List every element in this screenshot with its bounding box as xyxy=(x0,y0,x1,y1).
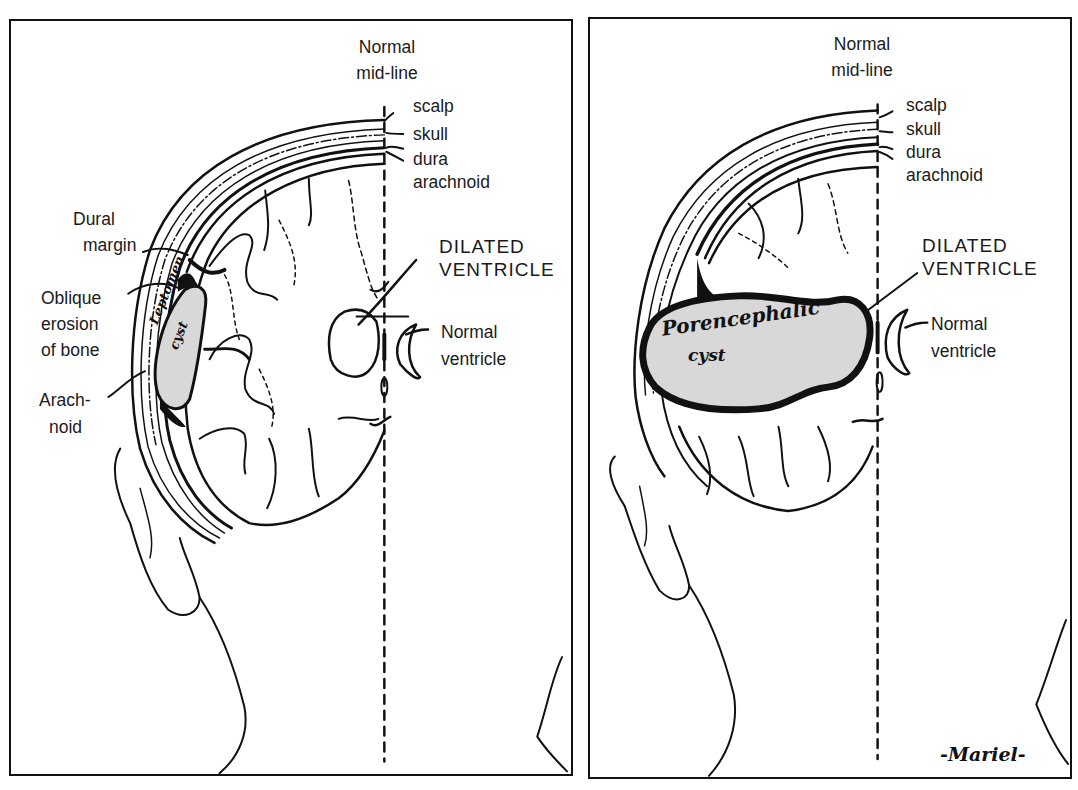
leptomeningeal-cyst-panel: Leptomen. cyst Normal mid-line scalp sku… xyxy=(9,19,573,776)
label-normal-ventricle: Normal ventricle xyxy=(931,311,996,365)
leptomeningeal-cyst-illustration xyxy=(11,21,571,774)
label-skull: skull xyxy=(906,119,941,139)
label-scalp: scalp xyxy=(413,96,454,116)
label-dural-margin: Dural margin xyxy=(73,209,137,255)
label-normal-midline: Normal mid-line xyxy=(337,37,437,83)
label-dilated-ventricle: DILATED VENTRICLE xyxy=(439,235,555,281)
label-dilated-ventricle: DILATED VENTRICLE xyxy=(922,234,1038,280)
label-dura: dura xyxy=(906,142,941,162)
label-normal-ventricle: Normal ventricle xyxy=(441,319,506,373)
label-skull: skull xyxy=(413,124,448,144)
porencephalic-cyst-illustration xyxy=(590,19,1070,777)
label-arachnoid: arachnoid xyxy=(413,172,490,192)
label-oblique-erosion: Oblique erosion of bone xyxy=(41,285,101,363)
artist-signature: -Mariel- xyxy=(940,743,1026,765)
label-normal-midline: Normal mid-line xyxy=(812,34,912,80)
cyst-label-2: cyst xyxy=(688,345,726,365)
label-scalp: scalp xyxy=(906,95,947,115)
label-arachnoid: arachnoid xyxy=(906,165,983,185)
label-arachnoid-left: Arach- noid xyxy=(39,387,91,441)
porencephalic-cyst-panel: Porencephalic cyst Normal mid-line scalp… xyxy=(588,17,1072,779)
label-dura: dura xyxy=(413,149,448,169)
